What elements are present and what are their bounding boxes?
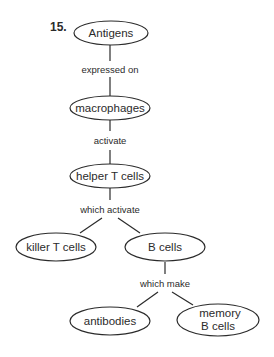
link-which-activate: which activate: [79, 204, 140, 215]
node-killer-t-cells-label: killer T cells: [26, 241, 86, 253]
node-killer-t-cells: killer T cells: [16, 233, 96, 261]
node-b-cells-label: B cells: [148, 241, 182, 253]
node-macrophages-label: macrophages: [75, 102, 145, 114]
link-activate: activate: [94, 135, 127, 146]
node-macrophages: macrophages: [70, 96, 150, 120]
node-b-cells: B cells: [125, 233, 205, 261]
connector-to-memory: [172, 292, 193, 305]
link-which-make: which make: [139, 278, 190, 289]
link-expressed-on: expressed on: [81, 64, 138, 75]
question-number: 15.: [50, 20, 67, 34]
node-antibodies-label: antibodies: [84, 315, 137, 327]
node-antibodies: antibodies: [70, 307, 150, 335]
connector-to-b-cells: [118, 218, 140, 233]
connector-to-killer: [80, 218, 102, 233]
node-memory-b-cells-label-line2: B cells: [201, 320, 235, 332]
connector-to-antibodies: [137, 292, 158, 307]
concept-map: 15. Antigens expressed on macrophages ac…: [0, 0, 274, 357]
node-helper-t-cells-label: helper T cells: [76, 170, 144, 182]
node-memory-b-cells-label-line1: memory: [199, 307, 241, 319]
node-antigens: Antigens: [74, 21, 148, 45]
node-helper-t-cells: helper T cells: [70, 164, 150, 188]
node-memory-b-cells: memory B cells: [177, 304, 259, 336]
node-antigens-label: Antigens: [89, 27, 134, 39]
